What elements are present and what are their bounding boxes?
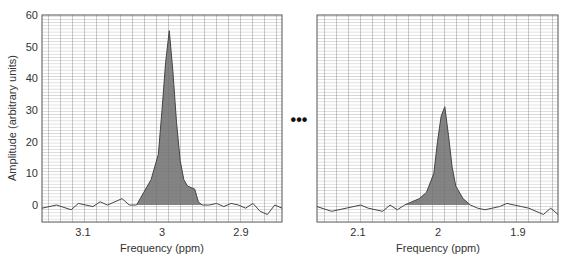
y-tick-0: 0 (32, 199, 38, 211)
x-tick-2.1: 2.1 (350, 226, 365, 238)
y-tick-20: 20 (26, 136, 38, 148)
y-tick-30: 30 (26, 104, 38, 116)
y-tick-40: 40 (26, 72, 38, 84)
x-tick-1.9: 1.9 (510, 226, 525, 238)
right-x-axis: 2.1 2 1.9 Frequency (ppm) (350, 226, 525, 254)
x-tick-3.1: 3.1 (75, 226, 90, 238)
y-axis-label: Amplitude (arbitrary units) (6, 55, 18, 181)
left-x-axis: 3.1 3 2.9 Frequency (ppm) (75, 226, 248, 254)
right-panel (317, 15, 558, 222)
x-tick-2.9: 2.9 (233, 226, 248, 238)
y-tick-10: 10 (26, 167, 38, 179)
x-tick-2: 2 (435, 226, 441, 238)
left-panel (42, 15, 282, 222)
y-tick-50: 50 (26, 41, 38, 53)
ellipsis-separator: ••• (291, 111, 308, 128)
left-x-axis-label: Frequency (ppm) (120, 242, 204, 254)
y-tick-60: 60 (26, 9, 38, 21)
nmr-spectra-chart: 60 50 40 30 20 10 0 Amplitude (arbitrary… (0, 0, 568, 266)
x-tick-3: 3 (159, 226, 165, 238)
right-x-axis-label: Frequency (ppm) (396, 242, 480, 254)
y-axis: 60 50 40 30 20 10 0 Amplitude (arbitrary… (6, 9, 38, 211)
